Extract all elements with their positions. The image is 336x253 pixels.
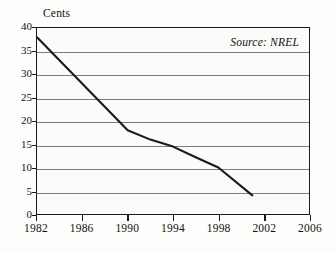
x-tick-mark: [264, 215, 265, 221]
x-tick-label: 1998: [207, 222, 231, 234]
y-tick-mark: [32, 27, 36, 28]
y-tick-label: 20: [2, 115, 32, 126]
y-tick-label: 30: [2, 68, 32, 79]
y-tick-label: 0: [2, 209, 32, 220]
y-tick-mark: [32, 215, 36, 216]
y-tick-mark: [32, 74, 36, 75]
x-tick-label: 2002: [252, 222, 276, 234]
y-tick-mark: [32, 98, 36, 99]
y-tick-label: 40: [2, 21, 32, 32]
y-tick-label: 5: [2, 186, 32, 197]
y-axis-tick-labels: 4035302520151050: [0, 27, 32, 215]
x-tick-label: 1986: [70, 222, 94, 234]
x-tick-label: 1990: [115, 222, 139, 234]
x-axis-tick-labels: 1982198619901994199820022006: [0, 222, 336, 240]
y-tick-label: 10: [2, 162, 32, 173]
x-tick-mark: [219, 215, 220, 221]
x-tick-mark: [173, 215, 174, 221]
x-tick-mark: [127, 215, 128, 221]
series-line-cost-per-kwh: [37, 28, 309, 214]
x-tick-mark: [310, 215, 311, 221]
y-tick-label: 15: [2, 139, 32, 150]
x-tick-label: 2006: [298, 222, 322, 234]
y-tick-mark: [32, 168, 36, 169]
line-chart-figure: Cents 4035302520151050 Source: NREL 1982…: [0, 0, 336, 253]
x-tick-mark: [82, 215, 83, 221]
y-axis-title: Cents: [43, 7, 70, 19]
y-tick-label: 35: [2, 45, 32, 56]
x-axis-tick-marks: [36, 215, 310, 221]
y-tick-mark: [32, 192, 36, 193]
x-tick-label: 1994: [161, 222, 185, 234]
x-tick-mark: [36, 215, 37, 221]
y-tick-mark: [32, 145, 36, 146]
x-tick-label: 1982: [24, 222, 48, 234]
plot-area: Source: NREL: [36, 27, 310, 215]
source-annotation: Source: NREL: [230, 36, 299, 48]
y-tick-mark: [32, 121, 36, 122]
y-tick-label: 25: [2, 92, 32, 103]
y-tick-mark: [32, 51, 36, 52]
